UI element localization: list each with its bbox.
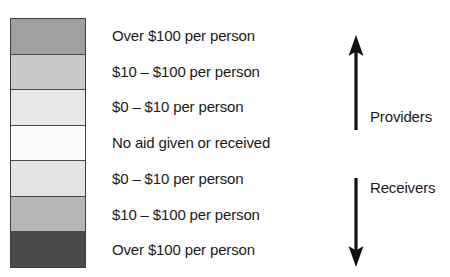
legend-swatch-column [10,18,86,268]
legend-label-column: Over $100 per person $10 – $100 per pers… [112,18,312,268]
legend-label: No aid given or received [112,125,312,161]
legend-swatch [11,161,85,197]
legend-swatch [11,126,85,162]
legend-label: $0 – $10 per person [112,89,312,125]
legend-label: $0 – $10 per person [112,161,312,197]
legend-swatch [11,197,85,233]
legend-label: $10 – $100 per person [112,54,312,90]
legend-swatch [11,232,85,267]
legend-label: $10 – $100 per person [112,197,312,233]
arrow-down-icon [344,178,368,268]
legend-swatch [11,55,85,91]
providers-arrow-group [344,34,368,130]
legend-figure: Over $100 per person $10 – $100 per pers… [0,0,450,277]
receivers-label: Receivers [370,179,435,196]
receivers-arrow-group [344,178,368,268]
arrow-up-icon [344,34,368,130]
legend-swatch [11,19,85,55]
providers-label: Providers [370,108,432,125]
legend-label: Over $100 per person [112,18,312,54]
legend-swatch [11,90,85,126]
legend-label: Over $100 per person [112,232,312,268]
